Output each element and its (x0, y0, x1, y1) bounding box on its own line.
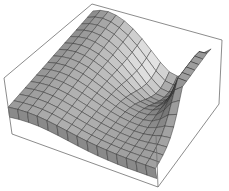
surface-plot (0, 0, 229, 191)
box-edge (219, 40, 222, 104)
surface-mesh (8, 10, 211, 178)
surface-plot-canvas (0, 0, 229, 191)
